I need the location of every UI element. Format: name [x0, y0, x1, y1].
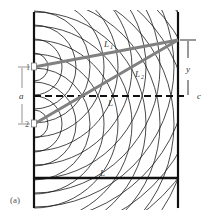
double-slit-diagram: 1 2 a L 1 L 2 L L y c (a): [0, 0, 210, 216]
slit-2-label: 2: [25, 120, 29, 129]
path-L2-label: L: [134, 69, 140, 79]
path-L2-subscript: 2: [141, 74, 144, 80]
screen-offset-label: y: [185, 64, 190, 74]
bottom-path-label: L: [99, 168, 105, 178]
slit-2-marker: [32, 120, 37, 127]
center-point-label: c: [197, 91, 201, 101]
path-L1-label: L: [103, 39, 109, 49]
slit-spacing-label: a: [19, 91, 24, 101]
path-L1-subscript: 1: [110, 44, 113, 50]
slit-1-label: 1: [26, 63, 30, 72]
slit-1-marker: [32, 63, 37, 70]
center-path-label: L: [107, 98, 113, 108]
panel-label: (a): [10, 195, 20, 205]
